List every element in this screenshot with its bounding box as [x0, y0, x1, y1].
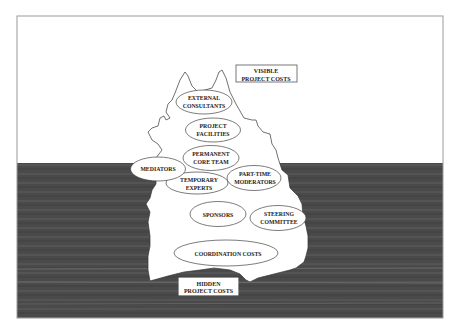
iceberg-diagram: VISIBLE PROJECT COSTS HIDDEN PROJECT COS… [0, 0, 458, 333]
item-part-time-moderators: PART-TIME MODERATORS [227, 166, 281, 191]
svg-text:COMMITTEE: COMMITTEE [260, 219, 297, 225]
svg-text:SPONSORS: SPONSORS [203, 212, 234, 218]
visible-label-line1: VISIBLE [254, 68, 278, 74]
svg-text:COORDINATION COSTS: COORDINATION COSTS [194, 251, 261, 257]
hidden-label-line1: HIDDEN [196, 281, 221, 287]
item-sponsors: SPONSORS [190, 202, 246, 227]
svg-text:PART-TIME: PART-TIME [239, 171, 271, 177]
hidden-label-line2: PROJECT COSTS [184, 288, 234, 294]
svg-text:PERMANENT: PERMANENT [192, 151, 229, 157]
item-steering-committee: STEERING COMMITTEE [250, 206, 306, 231]
svg-text:FACILITIES: FACILITIES [196, 131, 229, 137]
svg-text:MEDIATORS: MEDIATORS [140, 166, 175, 172]
svg-text:CORE TEAM: CORE TEAM [193, 159, 229, 165]
svg-text:MODERATORS: MODERATORS [234, 179, 276, 185]
svg-text:EXTERNAL: EXTERNAL [188, 95, 220, 101]
svg-text:STEERING: STEERING [264, 211, 294, 217]
svg-text:PROJECT: PROJECT [199, 123, 226, 129]
item-project-facilities: PROJECT FACILITIES [186, 118, 241, 142]
hidden-costs-label: HIDDEN PROJECT COSTS [179, 278, 238, 295]
visible-costs-label: VISIBLE PROJECT COSTS [236, 65, 297, 82]
visible-label-line2: PROJECT COSTS [241, 76, 291, 82]
item-mediators: MEDIATORS [131, 157, 186, 181]
svg-text:EXPERTS: EXPERTS [186, 185, 213, 191]
item-external-consultants: EXTERNAL CONSULTANTS [176, 90, 232, 114]
svg-text:TEMPORARY: TEMPORARY [180, 177, 219, 183]
svg-text:CONSULTANTS: CONSULTANTS [183, 103, 226, 109]
item-coordination-costs: COORDINATION COSTS [174, 240, 278, 266]
item-permanent-core-team: PERMANENT CORE TEAM [183, 146, 239, 171]
